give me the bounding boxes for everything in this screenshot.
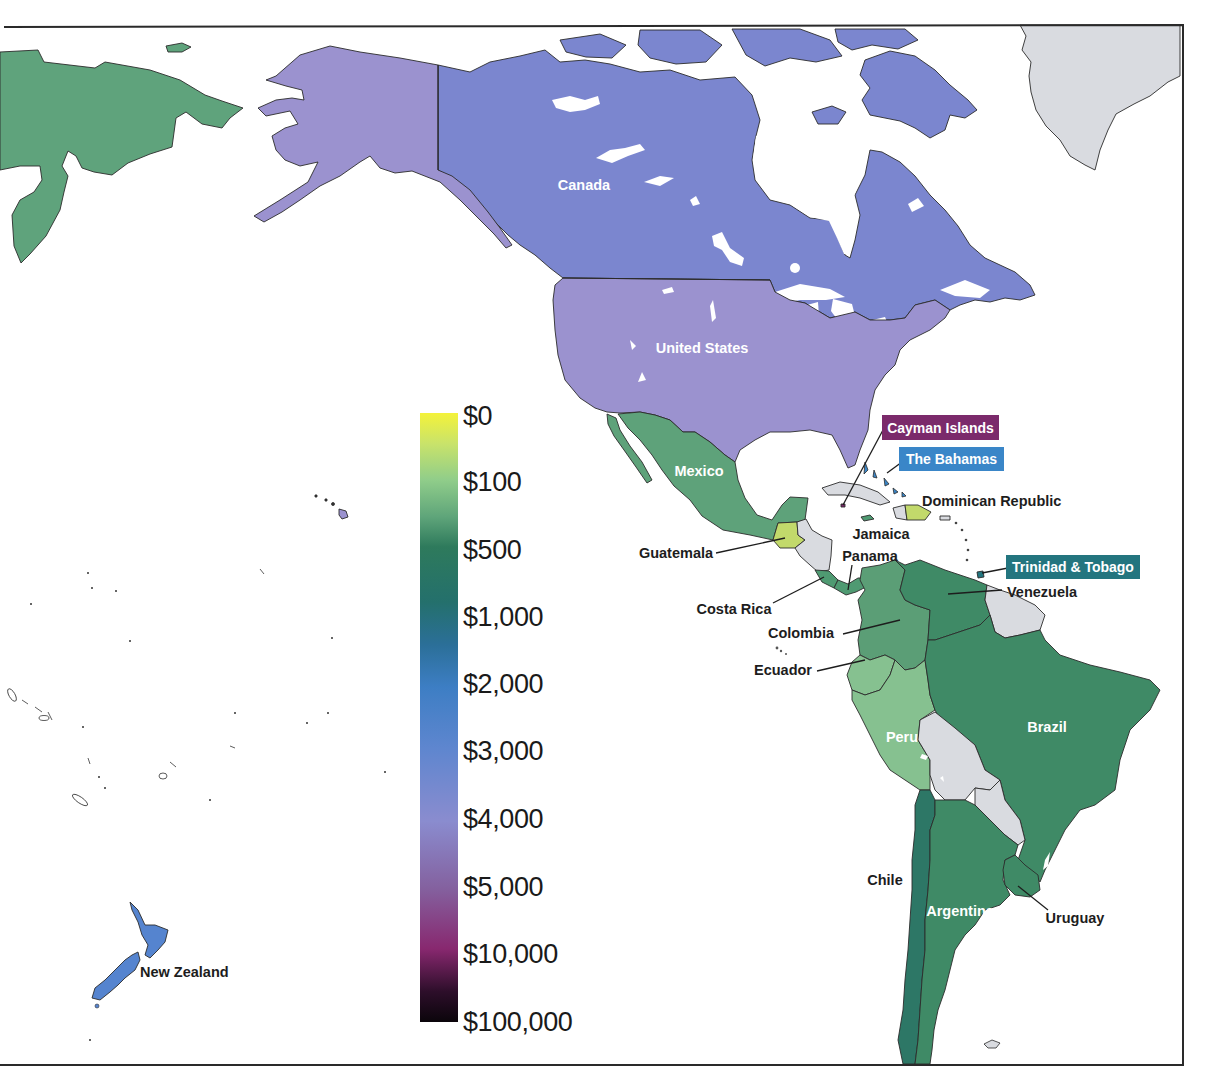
- legend-tick-label: $1,000: [463, 602, 543, 632]
- islet: [961, 529, 964, 532]
- region-cuba: [822, 482, 890, 505]
- islet: [82, 726, 84, 728]
- label-the-bahamas: The Bahamas: [906, 451, 997, 467]
- label-new-zealand: New Zealand: [140, 964, 229, 980]
- label-trinidad-and-tobago: Trinidad & Tobago: [1012, 559, 1134, 575]
- islet: [115, 590, 117, 592]
- legend: $0 $100 $500 $1,000 $2,000 $3,000 $4,000…: [420, 401, 572, 1037]
- region-puerto-rico: [940, 516, 950, 520]
- islet: [209, 799, 211, 801]
- islet: [327, 712, 329, 714]
- label-united-states: United States: [656, 340, 749, 356]
- badge-trinidad-and-tobago: Trinidad & Tobago: [1006, 555, 1140, 579]
- islet: [967, 549, 970, 552]
- pacific-islands: [6, 569, 264, 808]
- region-trinidad-and-tobago: [977, 571, 984, 578]
- hawaii-shape: [339, 509, 348, 519]
- leader-guatemala: [716, 538, 785, 553]
- legend-tick-label: $4,000: [463, 804, 543, 834]
- label-dominican-republic: Dominican Republic: [922, 493, 1061, 509]
- legend-tick-label: $5,000: [463, 872, 543, 902]
- islet: [6, 687, 18, 702]
- canada-island-victoria: [638, 30, 722, 64]
- islet: [234, 712, 236, 714]
- label-mexico: Mexico: [674, 463, 723, 479]
- islet: [129, 640, 131, 642]
- label-brazil: Brazil: [1027, 719, 1067, 735]
- label-canada: Canada: [558, 177, 611, 193]
- islet: [104, 787, 106, 789]
- islet: [87, 572, 89, 574]
- legend-tick-label: $500: [463, 535, 521, 565]
- label-peru: Peru: [886, 729, 918, 745]
- islet: [71, 792, 89, 807]
- nz-north-island: [130, 902, 168, 958]
- region-jamaica: [861, 515, 874, 521]
- russia-shape: [0, 50, 243, 263]
- galapagos-islands: [776, 647, 787, 655]
- label-costa-rica: Costa Rica: [697, 601, 773, 617]
- bahamas-island: [893, 488, 898, 494]
- badge-the-bahamas: The Bahamas: [899, 447, 1004, 471]
- islet: [306, 722, 308, 724]
- label-venezuela: Venezuela: [1007, 584, 1078, 600]
- lake-nipigon: [790, 263, 800, 273]
- legend-tick-label: $100: [463, 467, 521, 497]
- label-chile: Chile: [867, 872, 902, 888]
- region-russia: [0, 43, 243, 263]
- bahamas-island: [902, 492, 906, 497]
- islet: [22, 569, 264, 767]
- legend-tick-label: $10,000: [463, 939, 558, 969]
- legend-tick-label: $0: [463, 401, 492, 431]
- islet: [331, 637, 333, 639]
- bahamas-island: [873, 470, 877, 478]
- label-jamaica: Jamaica: [852, 526, 910, 542]
- canada-island-ellesmere: [835, 29, 918, 50]
- region-central-america-no-data: [795, 519, 832, 572]
- islet: [384, 771, 386, 773]
- islet: [965, 539, 968, 542]
- islet: [159, 773, 167, 779]
- russia-island: [166, 43, 191, 52]
- nz-south-island: [92, 952, 140, 1000]
- bahamas-island: [884, 478, 889, 486]
- islet: [955, 522, 958, 525]
- legend-color-bar: [420, 413, 458, 1022]
- label-panama: Panama: [842, 548, 899, 564]
- region-greenland: [1020, 25, 1180, 170]
- islet: [780, 650, 782, 652]
- region-argentina: [915, 800, 1018, 1064]
- badge-cayman-islands: Cayman Islands: [882, 415, 999, 440]
- islet: [966, 559, 969, 562]
- islet: [98, 776, 100, 778]
- stewart-island: [95, 1004, 99, 1008]
- label-uruguay: Uruguay: [1046, 910, 1105, 926]
- hawaii-islet: [315, 495, 317, 497]
- islet: [785, 653, 787, 655]
- canada-island-north: [732, 29, 842, 66]
- canada-island-banks: [560, 34, 626, 58]
- hawaii-islet: [325, 499, 327, 501]
- islet: [776, 647, 779, 650]
- legend-tick-label: $3,000: [463, 736, 543, 766]
- islet: [30, 603, 32, 605]
- legend-tick-label: $100,000: [463, 1007, 572, 1037]
- legend-tick-label: $2,000: [463, 669, 543, 699]
- region-new-zealand: [92, 902, 168, 1008]
- label-argentina: Argentina: [926, 903, 995, 919]
- islet: [91, 587, 93, 589]
- region-costa-rica: [815, 570, 838, 588]
- islet: [89, 1039, 91, 1041]
- canada-island-southampton: [812, 106, 846, 124]
- leader-trinidad-and-tobago: [982, 568, 1008, 573]
- label-ecuador: Ecuador: [754, 662, 812, 678]
- islet: [39, 716, 49, 721]
- falkland-islands: [984, 1040, 1000, 1048]
- hawaii-islet: [332, 503, 335, 506]
- label-guatemala: Guatemala: [639, 545, 714, 561]
- label-cayman-islands: Cayman Islands: [887, 420, 994, 436]
- choropleth-map: Canada United States Mexico Guatemala Co…: [0, 0, 1218, 1092]
- leader-costa-rica: [773, 577, 824, 603]
- label-colombia: Colombia: [768, 625, 835, 641]
- lesser-antilles: [955, 522, 970, 562]
